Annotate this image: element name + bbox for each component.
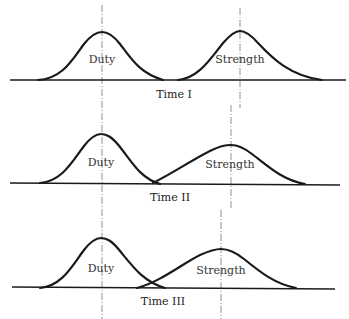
baseline <box>12 287 335 289</box>
strength-label: Strength <box>196 264 245 277</box>
panel-time-1: Duty Strength Time I <box>10 31 346 101</box>
panel-time-2: Duty Strength Time II <box>10 134 340 204</box>
duty-strength-diagram: Duty Strength Time I Duty Strength Time … <box>0 0 349 319</box>
time-label: Time I <box>156 88 192 101</box>
baseline <box>10 183 340 185</box>
duty-label: Duty <box>89 53 116 66</box>
time-label: Time III <box>141 295 185 308</box>
strength-label: Strength <box>215 53 264 66</box>
duty-label: Duty <box>88 262 115 275</box>
strength-label: Strength <box>205 158 254 171</box>
duty-label: Duty <box>88 156 115 169</box>
panel-time-3: Duty Strength Time III <box>12 238 335 308</box>
time-label: Time II <box>150 191 190 204</box>
